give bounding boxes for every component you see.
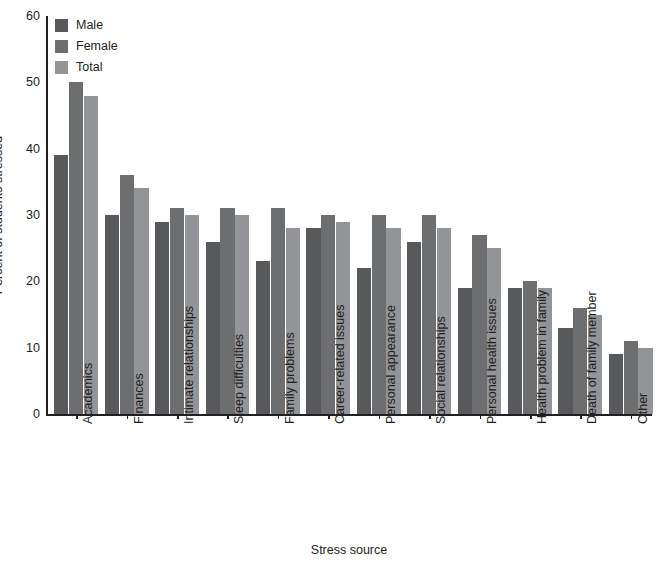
x-tick-label: Family problems — [283, 332, 297, 424]
legend-label-male: Male — [76, 19, 103, 32]
y-axis-title: Percent of students stressed — [0, 136, 5, 294]
x-tick-mark — [76, 414, 78, 419]
bar-male — [105, 215, 119, 414]
legend-item-total: Total — [55, 58, 118, 76]
chart-legend: Male Female Total — [55, 16, 118, 79]
bar-male — [306, 228, 320, 414]
bar-male — [357, 268, 371, 414]
x-tick-label: Sleep difficulties — [232, 334, 246, 424]
x-tick-mark — [227, 414, 229, 419]
x-tick-label: Career-related issues — [333, 305, 347, 425]
x-tick-label: Health problem in family — [535, 290, 549, 424]
bar-group — [609, 16, 653, 414]
x-tick-label: Death of family member — [585, 291, 599, 424]
x-tick-mark — [580, 414, 582, 419]
x-axis-title: Stress source — [311, 543, 387, 557]
x-tick-mark — [278, 414, 280, 419]
legend-item-female: Female — [55, 37, 118, 55]
x-tick-mark — [530, 414, 532, 419]
bar-male — [558, 328, 572, 414]
bar-male — [508, 288, 522, 414]
legend-item-male: Male — [55, 16, 118, 34]
bar-male — [458, 288, 472, 414]
bar-chart: 0102030405060 AcademicsFinancesIntimate … — [0, 0, 660, 569]
legend-label-female: Female — [76, 40, 118, 53]
bar-male — [155, 222, 169, 414]
legend-swatch-female-icon — [55, 40, 68, 53]
legend-swatch-total-icon — [55, 61, 68, 74]
x-tick-label: Finances — [132, 373, 146, 424]
y-tick-label: 0 — [33, 407, 47, 421]
x-tick-mark — [328, 414, 330, 419]
x-tick-mark — [480, 414, 482, 419]
x-tick-mark — [631, 414, 633, 419]
x-tick-label: Intimate relationships — [182, 306, 196, 424]
bar-male — [206, 242, 220, 414]
x-tick-mark — [127, 414, 129, 419]
y-tick-label: 40 — [26, 142, 47, 156]
y-tick-label: 10 — [26, 341, 47, 355]
legend-swatch-male-icon — [55, 19, 68, 32]
bar-male — [609, 354, 623, 414]
y-tick-label: 50 — [26, 75, 47, 89]
x-tick-mark — [429, 414, 431, 419]
x-tick-label: Personal appearance — [384, 305, 398, 424]
x-tick-label: Other — [636, 393, 650, 424]
y-tick-label: 60 — [26, 9, 47, 23]
bar-male — [407, 242, 421, 414]
bar-male — [54, 155, 68, 414]
x-tick-label: Social relationships — [434, 316, 448, 424]
x-tick-label: Personal health issues — [485, 298, 499, 424]
y-tick-label: 30 — [26, 208, 47, 222]
x-tick-mark — [177, 414, 179, 419]
x-tick-label: Academics — [81, 363, 95, 424]
legend-label-total: Total — [76, 61, 102, 74]
bar-groups — [47, 16, 652, 414]
plot-area — [47, 16, 652, 414]
bar-male — [256, 261, 270, 414]
y-tick-label: 20 — [26, 274, 47, 288]
x-tick-mark — [379, 414, 381, 419]
